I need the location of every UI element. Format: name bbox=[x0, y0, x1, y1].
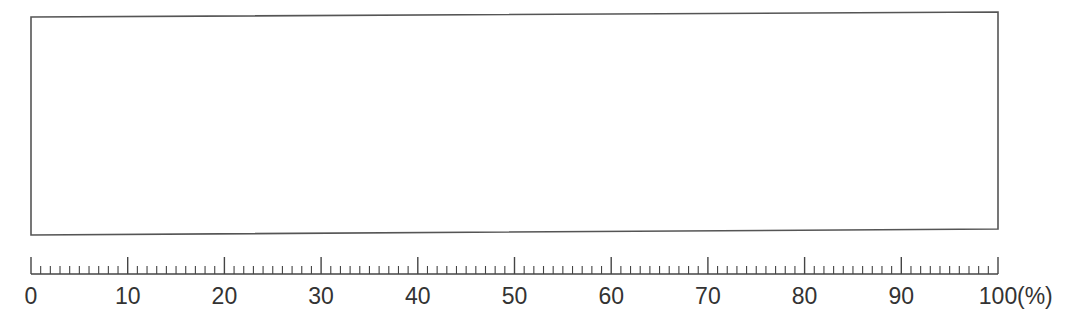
scale-label: 70 bbox=[695, 283, 721, 309]
percentage-scale-diagram: 0102030405060708090100 (%) bbox=[0, 0, 1080, 330]
scale-labels: 0102030405060708090100 bbox=[25, 283, 1018, 309]
empty-box bbox=[31, 12, 998, 235]
scale-ticks bbox=[31, 257, 998, 274]
scale-label: 30 bbox=[308, 283, 334, 309]
scale-label: 100 bbox=[979, 283, 1017, 309]
scale-label: 80 bbox=[792, 283, 818, 309]
scale-unit-label: (%) bbox=[1017, 283, 1053, 309]
scale-label: 50 bbox=[502, 283, 528, 309]
scale-label: 0 bbox=[25, 283, 38, 309]
scale-label: 60 bbox=[598, 283, 624, 309]
scale-label: 90 bbox=[889, 283, 915, 309]
percentage-scale: 0102030405060708090100 (%) bbox=[25, 257, 1053, 309]
scale-label: 10 bbox=[115, 283, 141, 309]
scale-label: 20 bbox=[212, 283, 238, 309]
scale-label: 40 bbox=[405, 283, 431, 309]
